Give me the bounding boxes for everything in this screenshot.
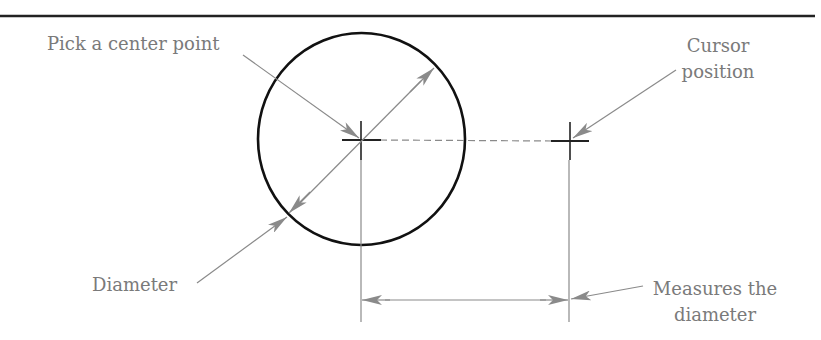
label-cursor-position: Cursor position — [666, 33, 770, 85]
label-measures-line1: Measures the — [640, 276, 790, 302]
rubber-band-dashed-line — [380, 140, 555, 141]
diameter-arrow-upper — [410, 68, 434, 92]
leader-cursor-position — [573, 70, 676, 138]
label-cursor-line2: position — [666, 59, 770, 85]
leader-measures-diameter — [571, 286, 643, 299]
cursor-cross-icon — [551, 122, 589, 160]
label-cursor-line1: Cursor — [666, 33, 770, 59]
leader-diameter — [197, 217, 287, 283]
diameter-arrow-lower — [289, 192, 310, 213]
diagram-canvas: Pick a center point Cursor position Diam… — [0, 0, 821, 340]
label-pick-center-point: Pick a center point — [47, 31, 220, 57]
label-measures-the-diameter: Measures the diameter — [640, 276, 790, 328]
label-diameter: Diameter — [92, 272, 177, 298]
leader-pick-center — [243, 55, 359, 138]
label-measures-line2: diameter — [640, 302, 790, 328]
